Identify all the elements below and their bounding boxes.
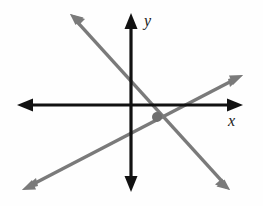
x-axis-label: x [228, 113, 235, 129]
graph-canvas [0, 0, 263, 206]
line-negative-slope [70, 14, 230, 190]
y-axis [125, 13, 138, 192]
coordinate-graph-figure: y x [0, 0, 263, 206]
y-axis-label: y [144, 13, 151, 29]
intersection-point [152, 112, 162, 122]
